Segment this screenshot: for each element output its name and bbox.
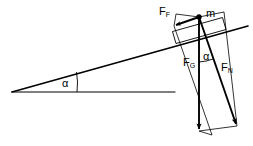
friction-force-subscript: F xyxy=(166,11,170,18)
gravity-force-subscript: G xyxy=(190,62,195,69)
mass-label: m xyxy=(206,8,215,19)
gravity-force-label: FG xyxy=(183,57,195,68)
normal-force-symbol: F xyxy=(221,61,228,73)
force-diagram: FF m FG FN α α xyxy=(0,0,253,146)
force-angle-label: α xyxy=(203,51,209,62)
normal-force-subscript: N xyxy=(228,67,233,74)
friction-force-arrow xyxy=(176,17,199,25)
incline-angle-label: α xyxy=(62,78,68,89)
incline-angle-arc xyxy=(77,72,78,92)
mass-point-dot xyxy=(196,14,201,19)
normal-force-label: FN xyxy=(221,62,233,73)
friction-force-label: FF xyxy=(159,6,170,17)
diagram-canvas xyxy=(0,0,253,146)
gravity-force-symbol: F xyxy=(183,56,190,68)
friction-force-symbol: F xyxy=(159,5,166,17)
